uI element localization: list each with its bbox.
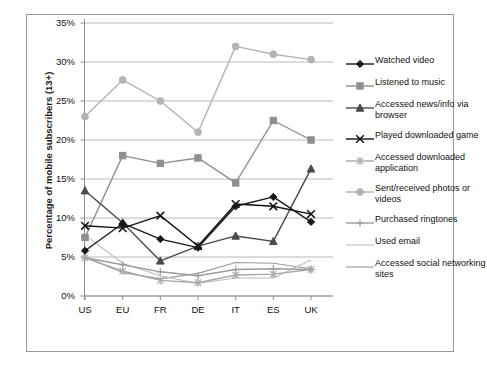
legend-label: Accessed news/info via browser	[375, 99, 487, 121]
y-tick-label: 20%	[41, 134, 75, 145]
y-tick-label: 30%	[41, 56, 75, 67]
legend-item[interactable]: Played downloaded game	[345, 130, 487, 143]
x-tick-label: ES	[256, 304, 290, 315]
legend-label: Purchased ringtones	[375, 214, 458, 225]
cut-off-header-text	[60, 0, 400, 10]
legend-label: Played downloaded game	[375, 130, 479, 141]
legend-label: Listened to music	[375, 77, 445, 88]
x-tick-label: DE	[181, 304, 215, 315]
legend-marker-icon	[345, 153, 375, 165]
y-tick-label: 10%	[41, 212, 75, 223]
y-tick-label: 35%	[41, 17, 75, 28]
legend-item[interactable]: Accessed downloaded application	[345, 152, 487, 174]
x-tick-label: UK	[294, 304, 328, 315]
series-line	[81, 193, 314, 254]
legend-marker-icon	[345, 215, 375, 227]
legend-item[interactable]: Accessed social networking sites	[345, 258, 487, 280]
legend-label: Watched video	[375, 55, 434, 66]
legend-label: Sent/received photos or videos	[375, 183, 487, 205]
legend-label: Used email	[375, 236, 420, 247]
x-tick-label: IT	[219, 304, 253, 315]
legend-item[interactable]: Accessed news/info via browser	[345, 99, 487, 121]
y-tick-label: 25%	[41, 95, 75, 106]
legend-marker-icon	[345, 56, 375, 68]
y-tick-label: 15%	[41, 173, 75, 184]
legend-item[interactable]: Listened to music	[345, 77, 487, 90]
legend-item[interactable]: Sent/received photos or videos	[345, 183, 487, 205]
chart-frame: Percentage of mobile subscribers (13+) 0…	[26, 14, 454, 352]
legend-marker-icon	[345, 237, 375, 249]
legend-marker-icon	[345, 259, 375, 271]
chart-legend: Watched videoListened to musicAccessed n…	[345, 55, 487, 289]
y-tick-label: 0%	[41, 290, 75, 301]
legend-marker-icon	[345, 131, 375, 143]
legend-item[interactable]: Purchased ringtones	[345, 214, 487, 227]
x-tick-label: EU	[106, 304, 140, 315]
legend-marker-icon	[345, 100, 375, 112]
legend-item[interactable]: Watched video	[345, 55, 487, 68]
legend-item[interactable]: Used email	[345, 236, 487, 249]
x-tick-label: US	[68, 304, 102, 315]
legend-label: Accessed downloaded application	[375, 152, 487, 174]
x-tick-label: FR	[143, 304, 177, 315]
series-line	[82, 43, 315, 136]
y-tick-label: 5%	[41, 251, 75, 262]
legend-marker-icon	[345, 184, 375, 196]
legend-label: Accessed social networking sites	[375, 258, 487, 280]
legend-marker-icon	[345, 78, 375, 90]
